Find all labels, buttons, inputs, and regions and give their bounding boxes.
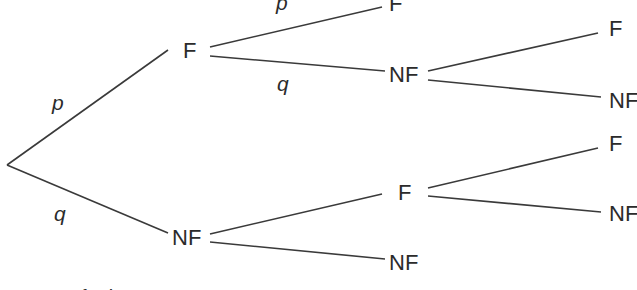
prob-label-F-NF: q [277, 72, 289, 95]
prob-label-F-F: p [275, 0, 288, 14]
node-F-F: F [389, 0, 402, 16]
edge-NFF-to-NF [428, 196, 601, 212]
edge-NF-to-F [210, 194, 382, 234]
edge-root-to-NF [7, 165, 168, 233]
edge-F-to-F [210, 7, 382, 47]
node-NF: NF [172, 225, 201, 250]
edge-FNF-to-NF [428, 80, 601, 97]
prob-label-root-F: p [51, 91, 64, 114]
node-NF-F-NF: NF [609, 201, 637, 226]
edge-NFF-to-F [428, 148, 598, 188]
caption: F = fault [46, 286, 119, 290]
node-F-NF-F: F [609, 16, 622, 41]
edge-FNF-to-F [428, 33, 598, 71]
node-NF-NF: NF [389, 250, 418, 275]
node-F: F [183, 38, 196, 63]
node-F-NF: NF [389, 62, 418, 87]
prob-label-root-NF: q [54, 202, 66, 225]
probability-tree-diagram: p q p q F NF F NF F NF F NF F NF F = fau… [0, 0, 637, 290]
node-NF-F: F [398, 180, 411, 205]
node-NF-F-F: F [609, 131, 622, 156]
node-F-NF-NF: NF [609, 88, 637, 113]
edge-root-to-F [7, 50, 168, 165]
edge-F-to-NF [210, 56, 385, 71]
edge-NF-to-NF [210, 242, 385, 259]
